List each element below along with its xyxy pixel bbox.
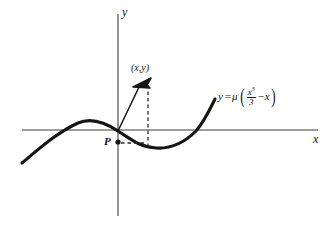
- curve-equation-label: y = μ ( x3 3 − x ): [218, 86, 277, 107]
- equation-close-paren: ): [271, 88, 275, 105]
- equation-open-paren: (: [240, 88, 244, 105]
- equation-denominator: 3: [248, 98, 255, 107]
- equation-fraction: x3 3: [247, 86, 256, 107]
- equation-equals: =: [225, 91, 231, 102]
- x-axis-label: x: [313, 133, 318, 145]
- equation-second-term: x: [265, 91, 270, 102]
- y-axis-label: y: [122, 6, 127, 18]
- point-p-label: P: [104, 136, 111, 147]
- equation-minus: −: [258, 91, 264, 102]
- cubic-nullcline-figure: [0, 0, 332, 229]
- vector-point-label: (x,y): [131, 63, 149, 73]
- point-p-marker: [115, 139, 120, 144]
- figure-background: [0, 0, 332, 229]
- equation-coefficient: μ: [232, 91, 238, 102]
- equation-lhs: y: [218, 91, 223, 102]
- equation-numerator: x3: [247, 86, 256, 97]
- equation-numerator-exponent: 3: [252, 86, 255, 92]
